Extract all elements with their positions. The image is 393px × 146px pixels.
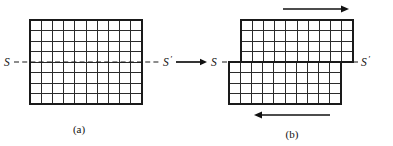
diagram-canvas: S S ′ (a): [0, 0, 393, 146]
panel-b-grid-top: [241, 20, 353, 62]
bottom-shear-arrow: [254, 112, 330, 119]
panel-a-caption: (a): [73, 123, 86, 136]
panel-b-grid-bottom: [229, 62, 341, 104]
svg-text:S: S: [361, 56, 367, 68]
svg-text:′: ′: [170, 54, 173, 64]
panel-a: S S ′ (a): [4, 20, 173, 136]
slip-plane-label-sprime-a: S ′: [163, 54, 173, 68]
panel-transition-arrow-head: [200, 59, 207, 65]
svg-text:S: S: [163, 56, 169, 68]
slip-diagram-figure: S S ′ (a): [0, 0, 393, 146]
slip-plane-label-s-b: S: [211, 56, 217, 68]
top-shear-arrow: [283, 6, 349, 13]
slip-plane-label-s-a: S: [4, 56, 10, 68]
svg-text:′: ′: [368, 54, 371, 64]
panel-b-caption: (b): [286, 128, 299, 141]
panel-b: S S ′ (b): [211, 6, 371, 141]
bottom-shear-arrow-head: [254, 112, 262, 119]
slip-plane-label-sprime-b: S ′: [361, 54, 371, 68]
top-shear-arrow-head: [341, 6, 349, 13]
panel-transition-arrow: [176, 59, 207, 65]
